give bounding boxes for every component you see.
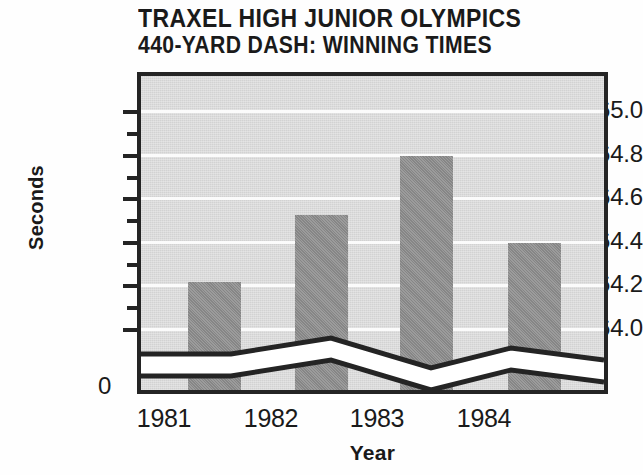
gridline-64-8 xyxy=(141,154,604,157)
x-tick-label-1983: 1983 xyxy=(322,404,432,433)
y-tick-minor-4 xyxy=(127,263,137,267)
y-tick-minor-5 xyxy=(127,306,137,310)
y-axis-title: Seconds xyxy=(25,165,48,250)
bar-1981 xyxy=(188,282,241,390)
y-tick-64-0 xyxy=(123,328,137,332)
y-tick-64-4 xyxy=(123,241,137,245)
chart-title-sub: 440-YARD DASH: WINNING TIMES xyxy=(138,32,598,59)
y-tick-65-0 xyxy=(123,110,137,114)
chart-title-main: TRAXEL HIGH JUNIOR OLYMPICS xyxy=(138,4,598,32)
y-tick-minor-3 xyxy=(127,219,137,223)
y-origin-label: 0 xyxy=(98,372,111,400)
chart-page: TRAXEL HIGH JUNIOR OLYMPICS 440-YARD DAS… xyxy=(0,0,643,475)
y-tick-minor-2 xyxy=(127,176,137,180)
bar-1983 xyxy=(400,156,453,390)
chart-title-block: TRAXEL HIGH JUNIOR OLYMPICS 440-YARD DAS… xyxy=(138,4,638,59)
x-tick-label-1981: 1981 xyxy=(109,404,219,433)
gridline-64-6 xyxy=(141,197,604,200)
bar-1982 xyxy=(295,215,348,390)
y-tick-64-8 xyxy=(123,154,137,158)
plot-area xyxy=(137,72,608,394)
gridline-65-0 xyxy=(141,110,604,113)
y-axis xyxy=(0,0,123,475)
y-tick-minor-1 xyxy=(127,132,137,136)
x-tick-label-1984: 1984 xyxy=(429,404,539,433)
y-tick-64-2 xyxy=(123,284,137,288)
bar-1984 xyxy=(508,243,561,390)
x-tick-label-1982: 1982 xyxy=(216,404,326,433)
x-axis-title: Year xyxy=(137,441,608,465)
y-tick-64-6 xyxy=(123,197,137,201)
